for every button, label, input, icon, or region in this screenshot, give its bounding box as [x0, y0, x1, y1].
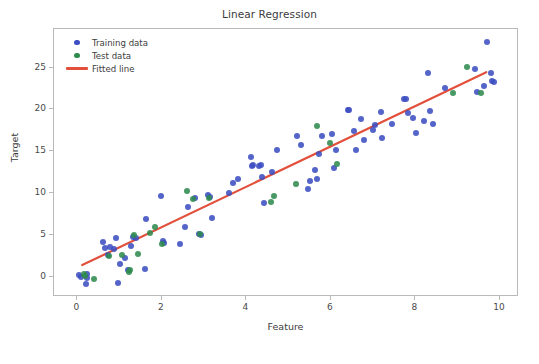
x-tick-label: 6: [327, 302, 333, 312]
data-point: [206, 195, 212, 201]
x-tick-mark: [76, 296, 77, 300]
data-point: [159, 241, 165, 247]
data-point: [413, 130, 419, 136]
x-tick-label: 10: [493, 302, 504, 312]
page-title: Linear Regression: [0, 8, 539, 20]
y-tick-label: 20: [16, 103, 46, 113]
legend-item-label: Training data: [92, 38, 148, 48]
legend-item-label: Fitted line: [92, 64, 134, 74]
data-point: [91, 276, 97, 282]
data-point: [312, 167, 318, 173]
data-point: [119, 252, 125, 258]
y-tick-label: 5: [16, 229, 46, 239]
data-point: [184, 188, 190, 194]
legend-item[interactable]: Fitted line: [64, 62, 148, 75]
data-point: [158, 193, 164, 199]
data-point: [113, 235, 119, 241]
data-point: [274, 147, 280, 153]
data-point: [135, 251, 141, 257]
data-point: [268, 199, 274, 205]
figure-canvas: Linear Regression Target Feature 0510152…: [0, 0, 539, 364]
legend-line-swatch-icon: [64, 67, 90, 69]
data-point: [351, 128, 357, 134]
data-point: [430, 121, 436, 127]
data-point: [226, 190, 232, 196]
data-point: [478, 90, 484, 96]
data-point: [147, 230, 153, 236]
data-point: [488, 70, 494, 76]
data-point: [472, 66, 478, 72]
data-point: [235, 176, 241, 182]
data-point: [389, 121, 395, 127]
x-tick-mark: [161, 296, 162, 300]
data-point: [353, 147, 359, 153]
y-tick-label: 25: [16, 62, 46, 72]
data-point: [379, 135, 385, 141]
data-point: [83, 281, 89, 287]
y-tick-label: 10: [16, 187, 46, 197]
data-point: [294, 133, 300, 139]
data-point: [271, 193, 277, 199]
legend-item-label: Test data: [92, 51, 131, 61]
x-axis-label: Feature: [53, 321, 518, 332]
legend-item[interactable]: Test data: [64, 49, 148, 62]
data-point: [421, 118, 427, 124]
data-point: [464, 64, 470, 70]
data-point: [111, 246, 117, 252]
data-point: [293, 181, 299, 187]
legend: Training dataTest dataFitted line: [61, 33, 154, 78]
data-point: [261, 200, 267, 206]
data-point: [346, 107, 352, 113]
data-point: [484, 39, 490, 45]
data-point: [333, 147, 339, 153]
data-point: [259, 174, 265, 180]
x-tick-label: 0: [73, 302, 79, 312]
data-point: [316, 151, 322, 157]
data-point: [127, 267, 133, 273]
data-point: [442, 85, 448, 91]
x-tick-mark: [499, 296, 500, 300]
data-point: [372, 122, 378, 128]
data-point: [182, 224, 188, 230]
data-point: [314, 176, 320, 182]
legend-item[interactable]: Training data: [64, 36, 148, 49]
data-point: [190, 196, 196, 202]
data-point: [329, 131, 335, 137]
data-point: [425, 70, 431, 76]
data-point: [378, 109, 384, 115]
data-point: [248, 154, 254, 160]
legend-dot-icon: [64, 40, 90, 46]
data-point: [298, 142, 304, 148]
data-point: [450, 90, 456, 96]
x-tick-label: 4: [242, 302, 248, 312]
x-tick-mark: [330, 296, 331, 300]
data-point: [305, 186, 311, 192]
data-point: [361, 137, 367, 143]
y-tick-label: 15: [16, 145, 46, 155]
data-point: [128, 243, 134, 249]
data-point: [258, 162, 264, 168]
data-point: [358, 116, 364, 122]
x-tick-label: 8: [412, 302, 418, 312]
data-point: [314, 123, 320, 129]
y-tick-label: 0: [16, 271, 46, 281]
data-point: [334, 161, 340, 167]
data-point: [143, 216, 149, 222]
data-point: [491, 79, 497, 85]
data-point: [185, 204, 191, 210]
data-point: [370, 127, 376, 133]
data-point: [177, 241, 183, 247]
data-point: [403, 96, 409, 102]
legend-dot-icon: [64, 53, 90, 59]
data-point: [209, 215, 215, 221]
data-point: [197, 231, 203, 237]
data-point: [481, 83, 487, 89]
data-point: [307, 178, 313, 184]
data-point: [427, 108, 433, 114]
data-point: [269, 169, 275, 175]
data-point: [142, 266, 148, 272]
data-point: [410, 115, 416, 121]
x-tick-mark: [245, 296, 246, 300]
data-point: [106, 253, 112, 259]
data-point: [405, 110, 411, 116]
